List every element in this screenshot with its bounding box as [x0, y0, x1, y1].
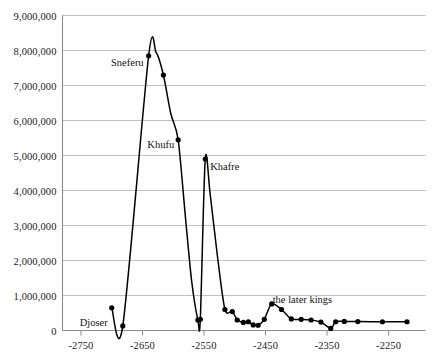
data-point-marker — [222, 307, 227, 312]
y-tick-label: 1,000,000 — [0, 290, 57, 301]
annotation-later-kings: the later kings — [273, 294, 332, 305]
y-tick-label: 4,000,000 — [0, 185, 57, 196]
data-point-marker — [308, 317, 313, 322]
x-tick-label: -2250 — [376, 340, 401, 351]
y-tick-label: 6,000,000 — [0, 115, 57, 126]
data-point-marker — [161, 72, 166, 77]
data-point-marker — [328, 326, 333, 331]
data-point-marker — [246, 319, 251, 324]
x-tick-label: -2450 — [253, 340, 278, 351]
y-tick-label: 2,000,000 — [0, 255, 57, 266]
data-point-marker — [203, 156, 208, 161]
x-tick-label: -2350 — [315, 340, 340, 351]
point-label-khufu: Khufu — [0, 138, 174, 149]
y-tick-label: 5,000,000 — [0, 150, 57, 161]
data-point-marker — [235, 317, 240, 322]
point-label-sneferu: Sneferu — [0, 56, 144, 67]
data-point-marker — [256, 323, 261, 328]
point-label-khafre: Khafre — [210, 161, 239, 172]
data-point-marker — [289, 316, 294, 321]
y-tick-label: 9,000,000 — [0, 10, 57, 21]
point-label-djoser: Djoser — [0, 316, 108, 327]
data-point-marker — [146, 53, 151, 58]
x-tick-label: -2650 — [130, 340, 155, 351]
data-line — [112, 37, 407, 339]
data-point-marker — [241, 320, 246, 325]
data-point-marker — [262, 317, 267, 322]
data-point-marker — [380, 319, 385, 324]
data-point-marker — [299, 317, 304, 322]
data-point-marker — [404, 319, 409, 324]
data-point-marker — [318, 320, 323, 325]
x-tick-label: -2550 — [192, 340, 217, 351]
data-point-marker — [176, 137, 181, 142]
data-point-marker — [198, 317, 203, 322]
data-point-marker — [333, 319, 338, 324]
data-point-marker — [230, 309, 235, 314]
data-point-marker — [251, 322, 256, 327]
data-point-marker — [109, 305, 114, 310]
pyramid-volume-chart: 9,000,0008,000,0007,000,0006,000,0005,00… — [0, 0, 433, 363]
y-tick-label: 7,000,000 — [0, 80, 57, 91]
x-tick-label: -2750 — [68, 340, 93, 351]
y-tick-label: 3,000,000 — [0, 220, 57, 231]
y-tick-label: 8,000,000 — [0, 45, 57, 56]
data-point-marker — [342, 319, 347, 324]
data-point-marker — [120, 323, 125, 328]
data-point-marker — [355, 319, 360, 324]
chart-plot-area — [0, 0, 433, 363]
data-point-marker — [279, 307, 284, 312]
